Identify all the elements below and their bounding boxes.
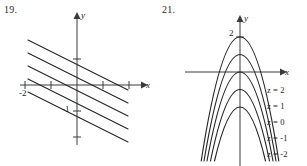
figure-19-panel: x y -2 -1 bbox=[0, 0, 155, 166]
level-label-z1: z = 1 bbox=[267, 101, 285, 111]
figure-19-plot bbox=[0, 0, 155, 166]
level-label-z0: z = 0 bbox=[267, 117, 285, 127]
level-line-1 bbox=[28, 40, 128, 90]
x-axis-label: x bbox=[146, 80, 150, 90]
level-line-4 bbox=[28, 79, 128, 129]
level-line-3 bbox=[28, 66, 128, 116]
x-axis-label: x bbox=[285, 67, 289, 77]
level-label-zm2: z = -2 bbox=[267, 149, 288, 159]
y-axis-arrow-icon bbox=[74, 12, 81, 19]
y-axis-arrow-icon bbox=[237, 15, 244, 22]
level-label-z2: z = 2 bbox=[267, 85, 285, 95]
figure-page: 19. x y -2 -1 bbox=[0, 0, 307, 166]
figure-21-panel: x y 2 z = 2 z = 1 z = 0 z = -1 z = -2 bbox=[155, 0, 307, 166]
y-axis-label: y bbox=[81, 10, 85, 20]
level-line-2 bbox=[28, 53, 128, 103]
y-tick-label-2: 2 bbox=[229, 28, 234, 38]
y-tick-label-minus1: -1 bbox=[62, 104, 70, 114]
y-axis-label: y bbox=[244, 13, 248, 23]
x-tick-label-minus2: -2 bbox=[19, 88, 27, 98]
level-label-zm1: z = -1 bbox=[267, 133, 288, 143]
level-line-5 bbox=[28, 92, 128, 142]
